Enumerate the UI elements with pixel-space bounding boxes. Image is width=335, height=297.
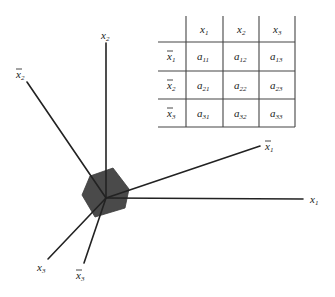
label-x3-bar: x3 <box>75 269 85 283</box>
cell-a31: a31 <box>197 107 210 121</box>
axes <box>27 43 303 263</box>
col-header-x3: x3 <box>272 23 282 37</box>
label-x1-bar: x1 <box>264 140 273 154</box>
label-x1: x1 <box>309 193 318 207</box>
cell-a22: a22 <box>234 79 247 93</box>
coordinate-transformation-diagram: x2 x2 x1 x1 x3 x3 x1 x2 x3 x1 x2 x3 a11 <box>0 0 335 297</box>
col-header-x2: x2 <box>236 23 246 37</box>
cell-a21: a21 <box>197 79 210 93</box>
cell-a23: a23 <box>270 79 283 93</box>
col-header-x1: x1 <box>199 23 208 37</box>
axis-x1-bar <box>106 146 260 198</box>
label-x2: x2 <box>100 29 110 43</box>
row-header-x2-bar: x2 <box>166 79 176 93</box>
transformation-matrix-table: x1 x2 x3 x1 x2 x3 a11 a12 a13 a21 a22 a2… <box>158 16 295 127</box>
axis-x2-bar <box>27 82 106 198</box>
row-header-x3-bar: x3 <box>166 107 176 121</box>
cell-a13: a13 <box>270 50 283 64</box>
cell-a12: a12 <box>234 50 247 64</box>
label-x3: x3 <box>36 261 46 275</box>
cell-a33: a33 <box>270 107 283 121</box>
axis-x1 <box>106 198 303 199</box>
row-header-x1-bar: x1 <box>166 50 175 64</box>
cell-a32: a32 <box>234 107 247 121</box>
axis-x3 <box>48 198 106 259</box>
label-x2-bar: x2 <box>15 68 25 82</box>
cell-a11: a11 <box>197 50 209 64</box>
